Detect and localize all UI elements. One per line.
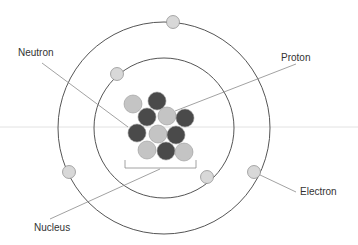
proton-particle: [138, 141, 156, 159]
neutron-particle: [157, 142, 175, 160]
electron-label: Electron: [300, 186, 337, 197]
electron: [248, 166, 261, 179]
proton-particle: [124, 95, 142, 113]
neutron-particle: [176, 109, 194, 127]
electron: [111, 68, 124, 81]
neutron-particle: [138, 108, 156, 126]
neutron-particle: [128, 124, 146, 142]
nucleus-label: Nucleus: [34, 222, 70, 233]
electron: [201, 171, 214, 184]
proton-label: Proton: [281, 52, 310, 63]
nucleus: [124, 92, 194, 161]
proton-particle: [149, 125, 167, 143]
electron: [167, 16, 180, 29]
neutron-label: Neutron: [18, 47, 54, 58]
neutron-particle: [167, 126, 185, 144]
neutron-particle: [148, 92, 166, 110]
proton-particle: [158, 107, 176, 125]
proton-particle: [175, 143, 193, 161]
atom-diagram: [0, 0, 358, 245]
electron-leader: [258, 174, 296, 192]
proton-leader: [175, 64, 296, 111]
electron: [63, 166, 76, 179]
